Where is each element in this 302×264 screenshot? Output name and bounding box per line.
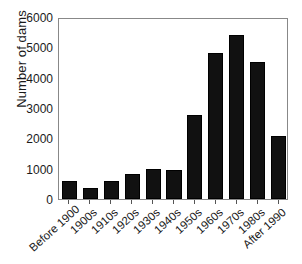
x-tick-mark <box>89 200 90 204</box>
bar <box>208 53 223 199</box>
x-tick-mark <box>110 200 111 204</box>
bar <box>187 115 202 199</box>
bar <box>229 35 244 199</box>
x-tick-mark <box>68 200 69 204</box>
bar <box>271 136 286 199</box>
bar <box>146 169 161 199</box>
plot-area <box>58 18 288 200</box>
y-tick-label: 0 <box>9 194 53 206</box>
bar <box>250 62 265 199</box>
x-tick-mark <box>131 200 132 204</box>
x-tick-mark <box>215 200 216 204</box>
bar <box>125 174 140 199</box>
y-tick-label: 1000 <box>9 164 53 176</box>
x-tick-mark <box>152 200 153 204</box>
x-tick-mark <box>194 200 195 204</box>
bar <box>166 170 181 199</box>
bar-chart-figure: Number of dams 0100020003000400050006000… <box>0 0 302 264</box>
y-tick-label: 4000 <box>9 73 53 85</box>
y-tick-label: 6000 <box>9 12 53 24</box>
x-tick-mark <box>278 200 279 204</box>
x-tick-mark <box>257 200 258 204</box>
x-tick-mark <box>236 200 237 204</box>
y-tick-label: 3000 <box>9 103 53 115</box>
x-tick-mark <box>173 200 174 204</box>
y-tick-label: 2000 <box>9 133 53 145</box>
bar <box>104 181 119 199</box>
y-tick-label: 5000 <box>9 42 53 54</box>
bar <box>62 181 77 199</box>
bar <box>83 188 98 199</box>
